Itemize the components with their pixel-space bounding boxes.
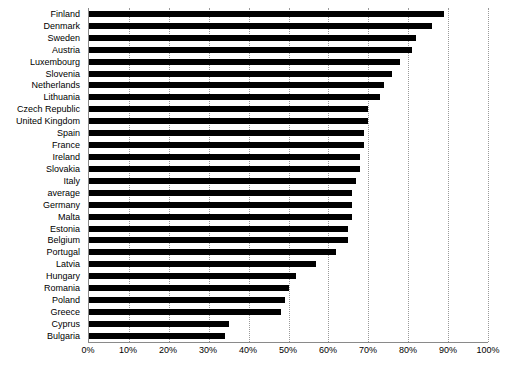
- category-label: France: [0, 139, 84, 151]
- bar-row: [89, 80, 488, 92]
- bar: [89, 285, 289, 291]
- category-label: Germany: [0, 199, 84, 211]
- category-label: average: [0, 187, 84, 199]
- value-axis-labels: 0%10%20%30%40%50%60%70%80%90%100%: [88, 345, 488, 359]
- bar-row: [89, 330, 488, 342]
- bar: [89, 154, 360, 160]
- bar: [89, 273, 296, 279]
- bar: [89, 94, 380, 100]
- bar: [89, 202, 352, 208]
- x-tick-label: 70%: [359, 345, 377, 356]
- bar: [89, 321, 229, 327]
- bar-row: [89, 199, 488, 211]
- category-label: Italy: [0, 175, 84, 187]
- category-label: Netherlands: [0, 80, 84, 92]
- category-label: Cyprus: [0, 318, 84, 330]
- bar: [89, 214, 352, 220]
- category-label: Luxembourg: [0, 56, 84, 68]
- bar-row: [89, 211, 488, 223]
- bar-row: [89, 270, 488, 282]
- bar: [89, 142, 364, 148]
- category-label: Slovakia: [0, 163, 84, 175]
- bar: [89, 35, 416, 41]
- bar: [89, 190, 352, 196]
- category-label: Latvia: [0, 258, 84, 270]
- bar-series: [89, 8, 488, 342]
- bar-row: [89, 8, 488, 20]
- bar: [89, 297, 285, 303]
- bar-row: [89, 91, 488, 103]
- x-tick-label: 80%: [399, 345, 417, 356]
- x-tick-label: 0%: [81, 345, 94, 356]
- category-label: Spain: [0, 127, 84, 139]
- bar-row: [89, 294, 488, 306]
- x-tick-label: 40%: [239, 345, 257, 356]
- category-label: Lithuania: [0, 91, 84, 103]
- category-label: Czech Republic: [0, 103, 84, 115]
- bar-row: [89, 235, 488, 247]
- plot-area: [88, 8, 488, 343]
- bar-row: [89, 103, 488, 115]
- bar: [89, 106, 368, 112]
- bar: [89, 11, 444, 17]
- bar-row: [89, 127, 488, 139]
- category-label: Malta: [0, 211, 84, 223]
- category-label: Estonia: [0, 223, 84, 235]
- category-label: Portugal: [0, 246, 84, 258]
- bar: [89, 23, 432, 29]
- x-tick-label: 50%: [279, 345, 297, 356]
- category-label: Denmark: [0, 20, 84, 32]
- category-label: Poland: [0, 294, 84, 306]
- bar: [89, 166, 360, 172]
- category-label: Romania: [0, 282, 84, 294]
- bar: [89, 130, 364, 136]
- bar: [89, 226, 348, 232]
- x-tick-label: 20%: [159, 345, 177, 356]
- category-label: Hungary: [0, 270, 84, 282]
- bar: [89, 47, 412, 53]
- category-label: Finland: [0, 8, 84, 20]
- x-tick-label: 90%: [439, 345, 457, 356]
- bar-row: [89, 175, 488, 187]
- bar-row: [89, 306, 488, 318]
- category-label: Greece: [0, 306, 84, 318]
- category-label: Slovenia: [0, 68, 84, 80]
- bar: [89, 71, 392, 77]
- bar-row: [89, 151, 488, 163]
- bar: [89, 178, 356, 184]
- bar-row: [89, 187, 488, 199]
- category-label: Sweden: [0, 32, 84, 44]
- bar: [89, 309, 281, 315]
- bar-row: [89, 115, 488, 127]
- bar-chart: FinlandDenmarkSwedenAustriaLuxembourgSlo…: [0, 0, 507, 373]
- x-tick-label: 60%: [319, 345, 337, 356]
- bar-row: [89, 56, 488, 68]
- category-label: Bulgaria: [0, 330, 84, 342]
- bar-row: [89, 223, 488, 235]
- bar-row: [89, 258, 488, 270]
- bar-row: [89, 318, 488, 330]
- category-label: Ireland: [0, 151, 84, 163]
- category-label: Belgium: [0, 235, 84, 247]
- bar: [89, 59, 400, 65]
- bar-row: [89, 32, 488, 44]
- bar-row: [89, 44, 488, 56]
- gridline: [488, 8, 489, 342]
- bar-row: [89, 20, 488, 32]
- x-tick-label: 10%: [119, 345, 137, 356]
- bar: [89, 249, 336, 255]
- bar: [89, 118, 368, 124]
- category-axis-labels: FinlandDenmarkSwedenAustriaLuxembourgSlo…: [0, 8, 84, 342]
- bar: [89, 237, 348, 243]
- category-label: United Kingdom: [0, 115, 84, 127]
- bar-row: [89, 68, 488, 80]
- category-label: Austria: [0, 44, 84, 56]
- bar-row: [89, 246, 488, 258]
- bar-row: [89, 163, 488, 175]
- bar-row: [89, 139, 488, 151]
- bar-row: [89, 282, 488, 294]
- x-tick-label: 30%: [199, 345, 217, 356]
- bar: [89, 82, 384, 88]
- bar: [89, 261, 316, 267]
- x-tick-label: 100%: [476, 345, 499, 356]
